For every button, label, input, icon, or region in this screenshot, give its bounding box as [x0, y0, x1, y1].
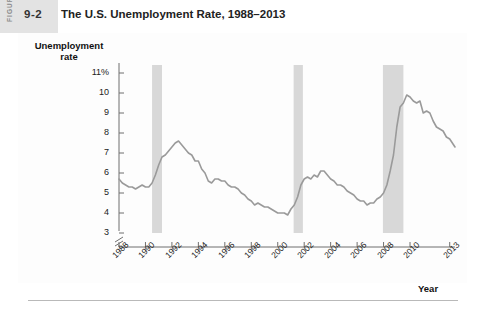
x-axis-title: Year	[418, 283, 458, 294]
axis-lines	[119, 63, 455, 247]
y-tick-label: 9	[83, 107, 109, 117]
series-line-unemployment-rate	[119, 95, 455, 215]
y-tick-label: 11%	[83, 67, 109, 77]
bottom-divider	[28, 300, 458, 301]
y-tick-label: 6	[83, 167, 109, 177]
y-tick-label: 10	[83, 87, 109, 97]
y-tick-label: 4	[83, 207, 109, 217]
recession-1990-1991-band	[152, 65, 162, 233]
y-tick-label: 8	[83, 127, 109, 137]
y-tick-label: 3	[83, 227, 109, 237]
y-tick-label: 5	[83, 187, 109, 197]
y-tick-label: 7	[83, 147, 109, 157]
recession-2007-2009-band	[383, 65, 404, 233]
y-axis-title: Unemployment rate	[30, 40, 108, 62]
chart-area: Unemployment rate Year 11%10987654319881…	[0, 0, 485, 313]
recession-2001-band	[294, 65, 303, 233]
